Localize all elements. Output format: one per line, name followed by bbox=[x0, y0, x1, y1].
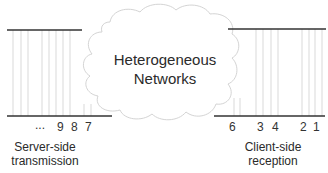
cloud-label: Heterogeneous Networks bbox=[95, 50, 235, 88]
packet-1: 1 bbox=[313, 121, 320, 133]
client-label-line2: reception bbox=[238, 154, 308, 168]
server-packets bbox=[13, 30, 91, 116]
server-label: Server-side transmission bbox=[10, 140, 80, 168]
packet-4: 4 bbox=[272, 121, 279, 133]
cloud-label-line1: Heterogeneous bbox=[95, 50, 235, 69]
server-label-line2: transmission bbox=[10, 154, 80, 168]
packet-3: 3 bbox=[257, 121, 264, 133]
packet-8: 8 bbox=[71, 121, 78, 133]
packet-2: 2 bbox=[300, 121, 307, 133]
packet-7: 7 bbox=[85, 121, 92, 133]
client-label: Client-side reception bbox=[238, 140, 308, 168]
client-packets bbox=[231, 29, 322, 116]
packet-ellipsis: ... bbox=[35, 119, 45, 131]
packet-6: 6 bbox=[229, 121, 236, 133]
cloud-label-line2: Networks bbox=[95, 69, 235, 88]
client-label-line1: Client-side bbox=[238, 140, 308, 154]
packet-9: 9 bbox=[57, 121, 64, 133]
server-label-line1: Server-side bbox=[10, 140, 80, 154]
